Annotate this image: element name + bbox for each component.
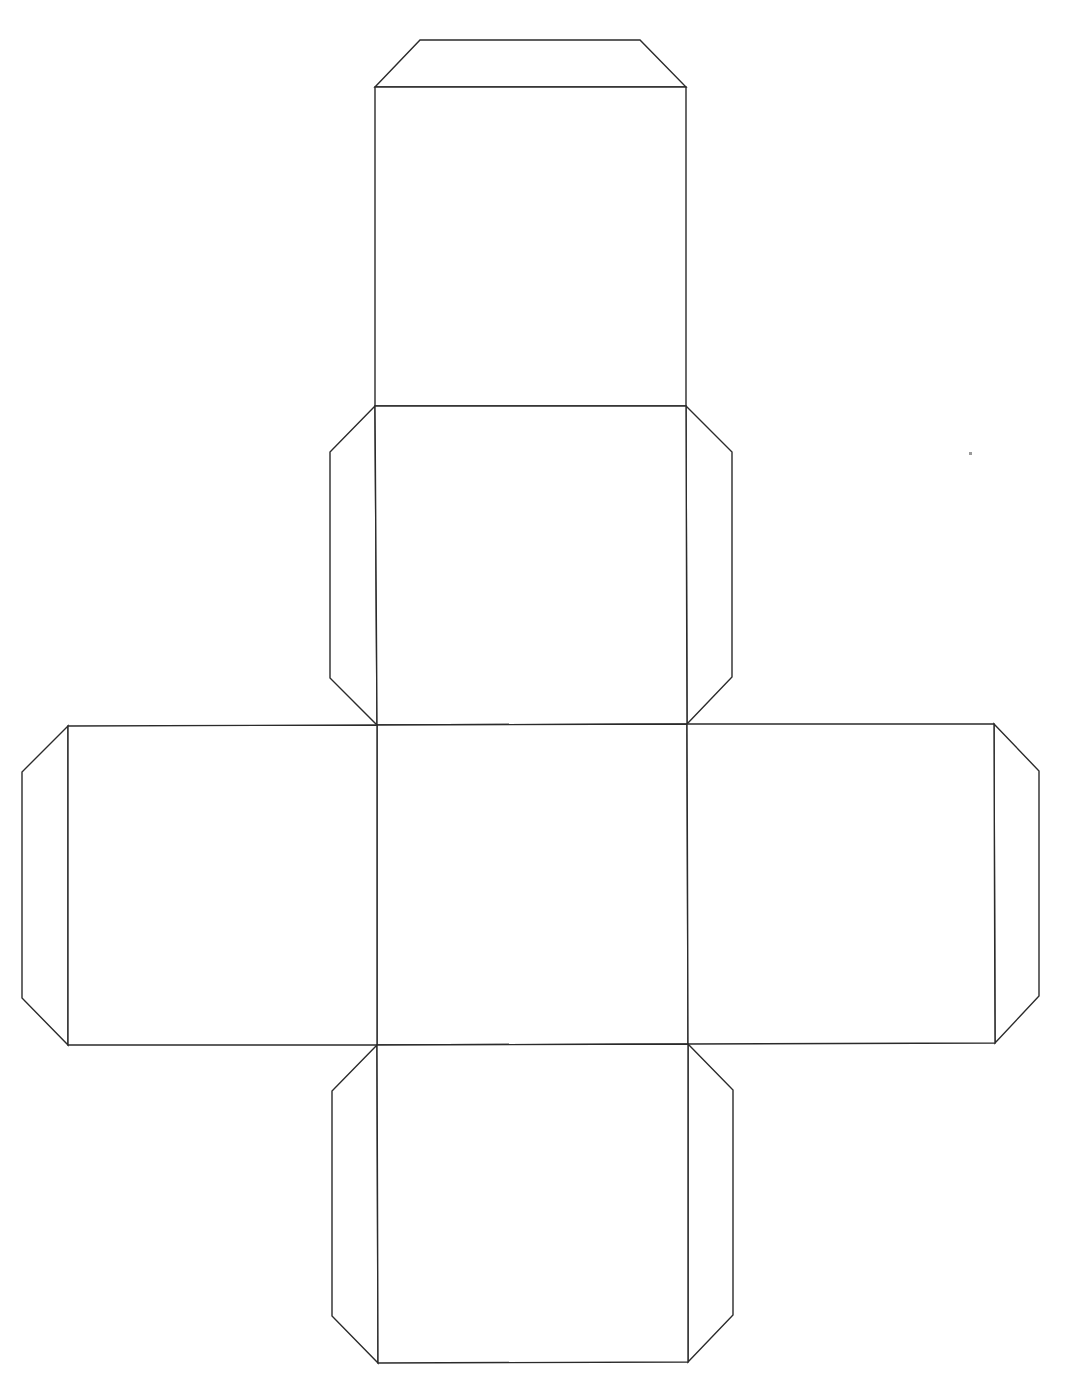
face-center	[377, 724, 688, 1045]
face-bottom	[377, 1044, 688, 1363]
face-top	[375, 87, 686, 406]
tab-top	[375, 40, 686, 87]
tab-right	[994, 724, 1039, 1043]
tab-bottom-right	[688, 1044, 733, 1362]
tab-upper-right	[686, 406, 732, 724]
tab-bottom-left	[332, 1045, 378, 1363]
cube-net-diagram	[0, 0, 1070, 1395]
paper-speck	[969, 452, 972, 455]
face-left	[68, 725, 377, 1045]
cube-faces	[68, 87, 995, 1363]
tab-left	[22, 726, 68, 1045]
tab-upper-left	[330, 406, 377, 725]
face-upper	[375, 406, 687, 725]
face-right	[687, 724, 995, 1044]
